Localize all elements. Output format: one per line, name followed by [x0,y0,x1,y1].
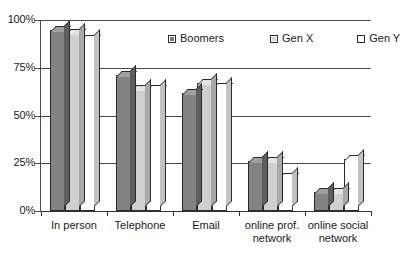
bar-side-face [292,167,298,207]
y-tick-mark [35,116,41,117]
bar-side-face [94,29,100,207]
bar-boomers-1 [116,75,131,211]
chart-legend: Boomers Gen X Gen Y [168,33,400,44]
bar-side-face [196,83,202,207]
bar-boomers-3 [248,161,263,211]
x-category-label: online prof. network [239,219,305,245]
bar-boomers-2 [182,93,197,211]
legend-entry-gen-x: Gen X [270,33,313,44]
bar-boomers-4 [314,192,329,211]
y-tick-mark [35,20,41,21]
x-tick-mark [41,211,42,216]
x-category-label: online social network [305,219,371,245]
x-tick-mark [239,211,240,216]
legend-entry-boomers: Boomers [168,33,224,44]
x-tick-mark [107,211,108,216]
y-tick-mark [35,163,41,164]
y-tick-mark [35,68,41,69]
y-tick-label: 75% [0,62,35,73]
x-tick-mark [371,211,372,216]
bar-side-face [145,79,151,207]
x-axis-line [41,211,371,212]
y-tick-label: 25% [0,157,35,168]
x-tick-mark [305,211,306,216]
y-tick-label: 0% [0,205,35,216]
legend-label-gen-x: Gen X [282,33,313,44]
bar-side-face [277,151,283,207]
legend-swatch-gen-y-icon [357,35,365,43]
y-tick-label: 100% [0,14,35,25]
x-category-label: Email [173,219,239,232]
legend-entry-gen-y: Gen Y [357,33,400,44]
legend-swatch-boomers-icon [168,35,176,43]
bar-side-face [64,20,70,207]
bar-boomers-0 [50,30,65,211]
bar-side-face [160,79,166,207]
x-category-label: Telephone [107,219,173,232]
bar-side-face [262,151,268,207]
legend-label-gen-y: Gen Y [369,33,400,44]
bar-side-face [79,23,85,207]
bar-side-face [226,77,232,207]
bar-side-face [358,149,364,207]
y-tick-label: 50% [0,110,35,121]
plot-area [41,20,371,211]
bar-side-face [211,73,217,207]
bar-side-face [130,65,136,207]
x-category-label: In person [41,219,107,232]
legend-label-boomers: Boomers [180,33,224,44]
legend-swatch-gen-x-icon [270,35,278,43]
x-tick-mark [173,211,174,216]
gridline [41,20,371,21]
